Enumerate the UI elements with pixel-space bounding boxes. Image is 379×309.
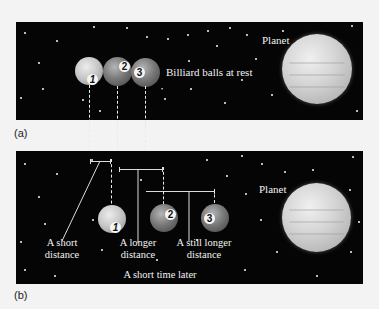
billiard-ball-1: 1 [98, 205, 126, 233]
star [255, 58, 257, 60]
leader-dot: • [161, 83, 163, 95]
label-line: A still longer [164, 237, 244, 249]
billiard-ball-2: 2 [103, 57, 132, 86]
billiard-ball-1: 1 [75, 57, 103, 85]
star [99, 110, 101, 112]
planet-band [289, 62, 345, 64]
short-distance-label: A short distance [34, 237, 90, 261]
planet-band [289, 209, 344, 211]
planet-band [289, 86, 345, 88]
planet [282, 34, 352, 104]
planet-band [289, 74, 345, 76]
panel-b-label: (b) [14, 289, 27, 301]
star [241, 79, 243, 81]
star [188, 60, 190, 62]
star [356, 110, 358, 112]
star [187, 34, 189, 36]
still-longer-distance-label: A still longer distance [164, 237, 244, 261]
billiard-ball-2: 2 [150, 204, 178, 232]
label-line: A longer [108, 237, 168, 249]
star [190, 88, 192, 90]
star [246, 34, 248, 36]
billiard-balls-at-rest-label: Billiard balls at rest [166, 66, 252, 78]
ball-number: 3 [204, 213, 215, 224]
ball-number: 2 [119, 61, 130, 72]
star [126, 27, 128, 29]
panel-b-space-scene: 1 2 3 A short distance A longer distance… [16, 151, 363, 284]
star [271, 94, 273, 96]
label-line: distance [34, 249, 90, 261]
star [282, 30, 284, 32]
ball-number: 3 [134, 67, 145, 78]
ball-number: 1 [87, 74, 98, 85]
star [24, 32, 26, 34]
star [164, 98, 166, 100]
ball-number: 1 [110, 222, 121, 233]
star [56, 40, 58, 42]
panel-a-space-scene: 1 2 3 • Billiard balls at rest Planet [16, 22, 363, 120]
longer-distance-label: A longer distance [108, 237, 168, 261]
star [42, 88, 44, 90]
star [146, 36, 148, 38]
star [216, 45, 218, 47]
panel-a-label: (a) [14, 127, 27, 139]
star [224, 102, 226, 104]
star [167, 38, 169, 40]
star [93, 26, 95, 28]
star [82, 99, 84, 101]
short-time-later-caption: A short time later [110, 269, 210, 281]
label-line: distance [164, 249, 244, 261]
billiard-ball-3: 3 [201, 204, 229, 232]
planet-label: Planet [259, 183, 287, 195]
star [20, 97, 22, 99]
star [207, 30, 209, 32]
billiard-ball-3: 3 [131, 58, 160, 87]
planet [282, 183, 351, 252]
label-line: A short [34, 237, 90, 249]
ball-number: 2 [165, 209, 176, 220]
planet-band [289, 233, 344, 235]
star [351, 25, 353, 27]
star [229, 27, 231, 29]
planet-band [289, 221, 344, 223]
star [38, 62, 40, 64]
label-line: distance [108, 249, 168, 261]
planet-label: Planet [262, 34, 290, 46]
